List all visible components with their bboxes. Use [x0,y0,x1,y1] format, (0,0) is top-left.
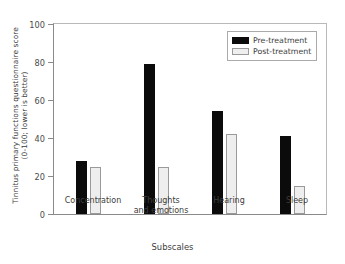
bar-thoughts-and-emotions-pre-treatment [144,64,155,214]
bar-concentration-pre-treatment [76,161,87,214]
chart-figure: Tinnitus primary functions questionnaire… [0,0,345,264]
y-axis-title: Tinnitus primary functions questionnaire… [0,0,34,264]
legend-swatch-post-treatment-icon [232,48,249,55]
legend-label-post-treatment: Post-treatment [253,47,311,56]
chart-legend: Pre-treatment Post-treatment [227,31,317,61]
y-tick-0: 0 [48,214,54,215]
y-axis-title-line2: (0-100; lower is better) [20,20,29,210]
y-tick-label-60: 60 [35,96,45,106]
x-axis-title: Subscales [0,242,345,252]
y-axis-title-line1: Tinnitus primary functions questionnaire… [11,20,20,210]
x-axis-group-label-sleep: Sleep [252,196,342,206]
y-tick-label-80: 80 [35,58,45,68]
y-tick-label-40: 40 [35,134,45,144]
y-tick-label-0: 0 [40,210,45,220]
legend-label-pre-treatment: Pre-treatment [253,36,307,45]
legend-swatch-pre-treatment-icon [232,37,249,44]
y-tick-label-20: 20 [35,172,45,182]
legend-item-post-treatment: Post-treatment [232,46,311,57]
bar-concentration-post-treatment [90,167,101,215]
legend-item-pre-treatment: Pre-treatment [232,35,311,46]
y-tick-label-100: 100 [29,20,45,30]
